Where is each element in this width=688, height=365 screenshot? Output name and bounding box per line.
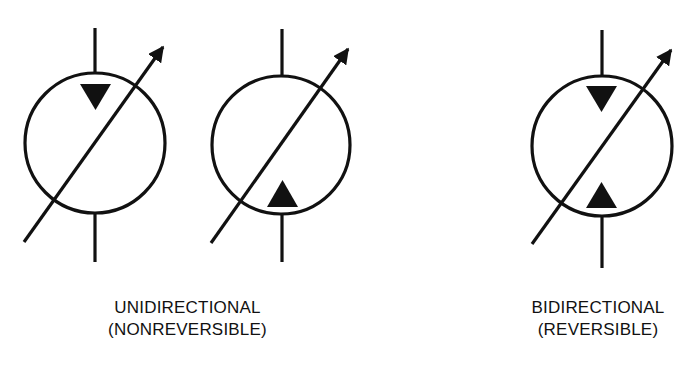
caption-bidirectional-line1: BIDIRECTIONAL (510, 297, 686, 319)
caption-unidirectional: UNIDIRECTIONAL (NONREVERSIBLE) (80, 297, 295, 341)
caption-unidirectional-line2: (NONREVERSIBLE) (80, 319, 295, 341)
caption-unidirectional-line1: UNIDIRECTIONAL (80, 297, 295, 319)
triangle-up-icon (586, 182, 617, 208)
caption-bidirectional: BIDIRECTIONAL (REVERSIBLE) (510, 297, 686, 341)
pump-symbol-unidirectional-down (24, 28, 165, 262)
caption-bidirectional-line2: (REVERSIBLE) (510, 319, 686, 341)
triangle-down-icon (586, 86, 617, 112)
pump-symbol-bidirectional (532, 30, 672, 268)
pump-symbol-unidirectional-up (211, 29, 350, 262)
triangle-down-icon (80, 84, 111, 110)
triangle-up-icon (267, 180, 298, 207)
